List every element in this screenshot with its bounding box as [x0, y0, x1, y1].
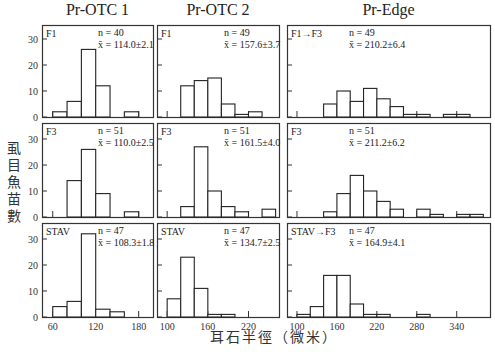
- svg-text:0: 0: [33, 312, 38, 323]
- panel-label: F3: [46, 126, 57, 137]
- histogram-bar: [181, 207, 195, 217]
- histogram-grid: 0102030F1n = 40x̄ = 114.0±2.1F1n = 49x̄ …: [0, 0, 495, 352]
- sample-size: n = 47: [349, 225, 375, 236]
- histogram-bar: [53, 112, 67, 117]
- histogram-bar: [67, 301, 81, 317]
- svg-text:20: 20: [28, 60, 38, 71]
- histogram-bar: [249, 112, 263, 117]
- histogram-bar: [417, 114, 430, 117]
- svg-text:160: 160: [329, 321, 344, 332]
- histogram-bar: [221, 314, 235, 317]
- histogram-panel: 0102030F1n = 40x̄ = 114.0±2.1: [28, 26, 154, 124]
- histogram-bar: [417, 209, 430, 217]
- histogram-bar: [96, 194, 110, 217]
- mean-value: x̄ = 110.0±2.5: [98, 137, 154, 148]
- svg-text:30: 30: [28, 234, 38, 245]
- svg-text:120: 120: [88, 321, 103, 332]
- svg-text:160: 160: [200, 321, 215, 332]
- sample-size: n = 49: [224, 27, 250, 38]
- svg-text:180: 180: [131, 321, 146, 332]
- histogram-bar: [67, 181, 81, 217]
- svg-text:30: 30: [28, 134, 38, 145]
- histogram-panel: 100160220280340STAV→F3n = 47x̄ = 164.9±4…: [287, 224, 491, 333]
- sample-size: n = 40: [98, 27, 124, 38]
- panel-label: F1→F3: [291, 28, 322, 39]
- mean-value: x̄ = 210.2±6.4: [349, 39, 405, 50]
- histogram-bar: [221, 207, 235, 217]
- svg-text:30: 30: [28, 34, 38, 45]
- histogram-bar: [457, 214, 470, 217]
- mean-value: x̄ = 134.7±2.5: [224, 237, 280, 248]
- histogram-bar: [181, 86, 195, 117]
- histogram-panel: 0102030F3n = 51x̄ = 110.0±2.5: [28, 124, 154, 224]
- svg-text:10: 10: [28, 86, 38, 97]
- panel-label: STAV→F3: [291, 226, 336, 237]
- svg-text:340: 340: [449, 321, 464, 332]
- histogram-bar: [337, 194, 350, 217]
- histogram-bar: [53, 307, 67, 317]
- sample-size: n = 47: [98, 225, 124, 236]
- mean-value: x̄ = 161.5±4.0: [224, 137, 280, 148]
- histogram-bar: [350, 175, 363, 217]
- histogram-bar: [194, 81, 208, 117]
- histogram-bar: [81, 149, 95, 217]
- histogram-bar: [167, 299, 181, 317]
- sample-size: n = 47: [224, 225, 250, 236]
- panel-label: STAV: [161, 226, 186, 237]
- histogram-bar: [194, 288, 208, 317]
- histogram-bar: [457, 114, 470, 117]
- histogram-bar: [235, 114, 249, 117]
- histogram-bar: [417, 314, 430, 317]
- panel-label: F1: [161, 28, 172, 39]
- histogram-bar: [81, 234, 95, 317]
- histogram-bar: [81, 49, 95, 117]
- sample-size: n = 51: [349, 125, 375, 136]
- histogram-bar: [377, 99, 390, 117]
- histogram-panel: F1n = 49x̄ = 157.6±3.7: [157, 26, 280, 118]
- histogram-bar: [110, 312, 124, 317]
- svg-text:280: 280: [409, 321, 424, 332]
- histogram-panel: 100160220STAVn = 47x̄ = 134.7±2.5: [157, 224, 280, 333]
- histogram-bar: [208, 314, 222, 317]
- svg-text:220: 220: [241, 321, 256, 332]
- sample-size: n = 49: [349, 27, 375, 38]
- svg-text:10: 10: [28, 186, 38, 197]
- histogram-bar: [324, 104, 337, 117]
- histogram-panel: 010203060120180STAVn = 47x̄ = 108.3±1.8: [28, 224, 154, 333]
- mean-value: x̄ = 108.3±1.8: [98, 237, 154, 248]
- histogram-panel: F3n = 51x̄ = 211.2±6.2: [287, 124, 491, 218]
- histogram-bar: [430, 214, 443, 217]
- histogram-bar: [221, 104, 235, 117]
- panel-label: STAV: [46, 226, 71, 237]
- histogram-bar: [297, 314, 310, 317]
- histogram-bar: [364, 314, 377, 317]
- svg-text:0: 0: [33, 112, 38, 123]
- svg-text:60: 60: [48, 321, 58, 332]
- svg-text:20: 20: [28, 260, 38, 271]
- histogram-bar: [310, 307, 323, 317]
- sample-size: n = 51: [224, 125, 250, 136]
- histogram-bar: [443, 114, 456, 117]
- svg-text:0: 0: [33, 212, 38, 223]
- histogram-bar: [262, 209, 276, 217]
- histogram-bar: [364, 191, 377, 217]
- histogram-bar: [324, 212, 337, 217]
- histogram-bar: [350, 304, 363, 317]
- svg-text:100: 100: [289, 321, 304, 332]
- histogram-bar: [208, 78, 222, 117]
- svg-text:220: 220: [369, 321, 384, 332]
- histogram-bar: [124, 212, 138, 217]
- histogram-panel: F1→F3n = 49x̄ = 210.2±6.4: [287, 26, 491, 118]
- histogram-bar: [377, 314, 390, 317]
- panel-label: F3: [291, 126, 302, 137]
- histogram-bar: [194, 147, 208, 217]
- mean-value: x̄ = 157.6±3.7: [224, 39, 280, 50]
- sample-size: n = 51: [98, 125, 124, 136]
- histogram-bar: [96, 309, 110, 317]
- mean-value: x̄ = 114.0±2.1: [98, 39, 154, 50]
- mean-value: x̄ = 211.2±6.2: [349, 137, 405, 148]
- histogram-bar: [337, 91, 350, 117]
- histogram-bar: [67, 101, 81, 117]
- histogram-bar: [181, 257, 195, 317]
- histogram-bar: [208, 191, 222, 217]
